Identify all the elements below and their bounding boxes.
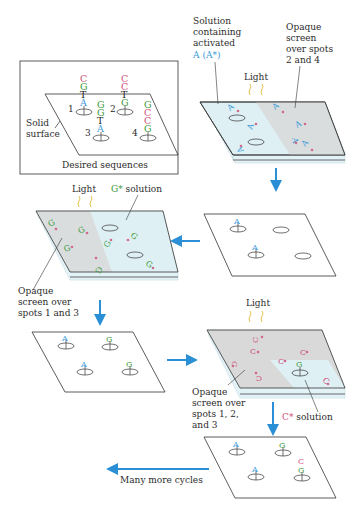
- light-ray-icon: [249, 311, 251, 322]
- svg-text:G: G: [296, 360, 302, 369]
- result2-spot1: A: [61, 334, 68, 343]
- spot-number-2: 2: [110, 104, 116, 114]
- result3-panel: A G A G C: [204, 437, 336, 498]
- screen-label-line4: 2 and 4: [286, 55, 320, 65]
- light-label: Light: [244, 72, 268, 82]
- step2-panel: Light G* solution G G G G G G G Opaque s…: [18, 184, 178, 318]
- solid-label: Solid: [26, 118, 49, 128]
- diagram-canvas: Solid surface 1 A T G C 2 G T C C 3 A T …: [0, 0, 355, 514]
- step1-panel: Solution containing activated A (A*) Opa…: [192, 16, 345, 163]
- spot-number-3: 3: [85, 128, 91, 138]
- light-label: Light: [246, 298, 270, 308]
- screen-label-line2: screen over: [192, 398, 246, 408]
- svg-text:G: G: [97, 99, 105, 110]
- svg-text:A: A: [232, 440, 239, 449]
- svg-text:C: C: [250, 347, 256, 356]
- svg-text:C: C: [256, 374, 262, 383]
- solution-label-line1: Solution: [193, 16, 231, 26]
- light-ray-icon: [90, 196, 92, 207]
- step3-panel: Light G C C C C C C C Opaque screen over…: [192, 298, 345, 430]
- screen-label-line1: Opaque: [192, 387, 227, 397]
- result2-panel: A G A G: [32, 332, 165, 392]
- many-more-cycles-label: Many more cycles: [120, 475, 203, 485]
- c-star-solution-label: C* solution: [282, 412, 333, 422]
- solution-label-line3: activated: [193, 38, 235, 48]
- screen-label-line3: spots 1, 2,: [192, 409, 239, 419]
- svg-text:G: G: [144, 99, 152, 110]
- result2-spot4: G: [126, 360, 132, 369]
- svg-text:C: C: [230, 361, 239, 367]
- light-label: Light: [72, 184, 96, 194]
- g-star-solution-label: G* solution: [111, 184, 162, 194]
- solution-label-line2: containing: [193, 27, 242, 37]
- svg-text:C: C: [121, 73, 128, 84]
- screen-label-line3: spots 1 and 3: [18, 308, 79, 318]
- result2-spot2: G: [106, 335, 112, 344]
- svg-text:C: C: [251, 337, 260, 343]
- screen-label-line3: over spots: [286, 44, 333, 54]
- result1-spot3: A: [251, 243, 258, 252]
- result1-spot1: A: [233, 217, 240, 226]
- svg-text:G: G: [298, 466, 304, 475]
- svg-text:C: C: [80, 73, 87, 84]
- spot-number-1: 1: [68, 104, 74, 114]
- light-ray-icon: [249, 84, 251, 95]
- light-ray-icon: [261, 84, 263, 95]
- spot-number-4: 4: [132, 128, 138, 138]
- svg-text:G: G: [279, 441, 285, 450]
- screen-label-line4: and 3: [192, 420, 218, 430]
- desired-sequences-panel: Solid surface 1 A T G C 2 G T C C 3 A T …: [20, 61, 178, 174]
- screen-label-line2: screen over: [18, 297, 72, 307]
- svg-text:C: C: [300, 348, 306, 357]
- screen-label-line2: screen: [286, 33, 317, 43]
- svg-text:C: C: [298, 457, 304, 466]
- light-ray-icon: [78, 196, 80, 207]
- solution-nucleotide-a: A (A*): [192, 50, 220, 60]
- svg-text:C: C: [278, 357, 284, 366]
- svg-text:A: A: [251, 465, 258, 474]
- light-ray-icon: [261, 311, 263, 322]
- surface-label: surface: [26, 129, 60, 139]
- desired-sequences-caption: Desired sequences: [62, 160, 148, 170]
- result1-panel: A A: [204, 214, 336, 276]
- screen-label-line1: Opaque: [18, 286, 53, 296]
- result2-spot3: A: [80, 360, 87, 369]
- screen-label-line1: Opaque: [286, 22, 321, 32]
